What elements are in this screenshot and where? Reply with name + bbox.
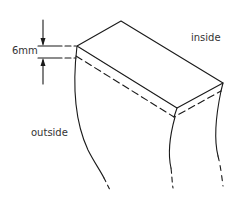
dimension-label: 6mm xyxy=(12,46,38,56)
left-outside-curve xyxy=(75,46,104,178)
dim-arrowhead-down xyxy=(41,38,46,46)
seam-dashed-line xyxy=(76,56,221,117)
inside-label: inside xyxy=(191,33,221,43)
right-inside-curve xyxy=(216,91,221,156)
front-curve xyxy=(170,117,175,168)
dim-arrowhead-up xyxy=(41,58,46,66)
front-corner-edge xyxy=(174,108,177,117)
front-curve-dash xyxy=(171,168,173,188)
outside-label: outside xyxy=(31,128,68,138)
left-outside-curve-dash xyxy=(104,178,110,190)
right-inside-curve-dash xyxy=(218,156,223,186)
block-seam-diagram xyxy=(0,0,237,199)
